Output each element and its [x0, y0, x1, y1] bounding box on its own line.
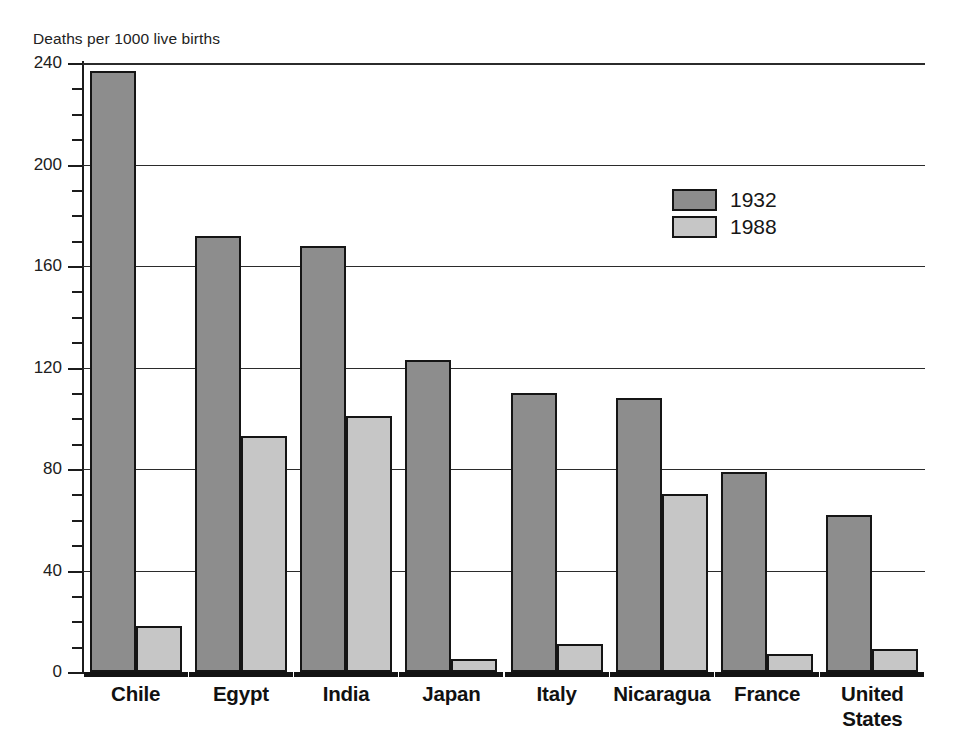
y-tick-210 — [72, 139, 83, 141]
bar-group — [405, 63, 497, 672]
y-tick-150 — [72, 291, 83, 293]
x-axis-label-line: France — [715, 681, 820, 706]
bar-1988-japan[interactable] — [451, 659, 497, 672]
bar-1932-chile[interactable] — [90, 71, 136, 672]
x-axis-label-united-states: UnitedStates — [820, 681, 925, 731]
y-axis-label-160: 160 — [34, 256, 62, 276]
bar-1988-united-states[interactable] — [872, 649, 918, 672]
x-axis-label-india: India — [294, 681, 399, 706]
group-baseline — [505, 672, 609, 677]
x-axis-label-france: France — [715, 681, 820, 706]
y-axis-label-120: 120 — [34, 358, 62, 378]
group-baseline — [189, 672, 293, 677]
x-axis-label-line: India — [294, 681, 399, 706]
group-baseline — [820, 672, 924, 677]
bar-1988-italy[interactable] — [557, 644, 603, 672]
bar-group — [300, 63, 392, 672]
legend-label-1988: 1988 — [730, 215, 777, 239]
bar-1932-japan[interactable] — [405, 360, 451, 672]
x-axis-label-nicaragua: Nicaragua — [609, 681, 714, 706]
legend-item-1988[interactable]: 1988 — [672, 213, 777, 240]
legend-swatch-1988-icon — [672, 216, 717, 238]
y-tick-140 — [72, 317, 83, 319]
y-tick-220 — [72, 114, 83, 116]
legend-item-1932[interactable]: 1932 — [672, 186, 777, 213]
y-tick-30 — [72, 596, 83, 598]
group-baseline — [399, 672, 503, 677]
legend-label-1932: 1932 — [730, 188, 777, 212]
y-axis-label-200: 200 — [34, 155, 62, 175]
y-tick-90 — [72, 444, 83, 446]
bar-group — [826, 63, 918, 672]
y-axis-label-240: 240 — [34, 53, 62, 73]
bar-1932-united-states[interactable] — [826, 515, 872, 672]
x-axis-label-line: States — [820, 706, 925, 731]
bar-group — [511, 63, 603, 672]
group-baseline — [84, 672, 188, 677]
bar-1932-india[interactable] — [300, 246, 346, 672]
chart-legend: 1932 1988 — [672, 186, 777, 240]
group-baseline — [715, 672, 819, 677]
infant-mortality-bar-chart: Deaths per 1000 live births 040801201602… — [0, 0, 964, 744]
y-axis-label-80: 80 — [43, 459, 62, 479]
x-axis-label-line: Nicaragua — [609, 681, 714, 706]
bar-group — [90, 63, 182, 672]
y-tick-130 — [72, 342, 83, 344]
x-axis-label-line: Italy — [504, 681, 609, 706]
bar-1988-france[interactable] — [767, 654, 813, 672]
y-tick-200 — [68, 165, 83, 167]
y-tick-240 — [68, 63, 83, 65]
y-tick-40 — [68, 571, 83, 573]
x-axis-label-line: United — [820, 681, 925, 706]
bar-1932-italy[interactable] — [511, 393, 557, 672]
plot-area — [83, 63, 925, 672]
y-axis-label-40: 40 — [43, 561, 62, 581]
bar-1932-nicaragua[interactable] — [616, 398, 662, 672]
y-tick-170 — [72, 241, 83, 243]
x-axis-label-line: Chile — [83, 681, 188, 706]
y-tick-50 — [72, 545, 83, 547]
bar-1988-egypt[interactable] — [241, 436, 287, 672]
y-tick-80 — [68, 469, 83, 471]
bar-1988-india[interactable] — [346, 416, 392, 672]
bar-group — [195, 63, 287, 672]
x-axis-label-japan: Japan — [399, 681, 504, 706]
y-tick-110 — [72, 393, 83, 395]
x-axis-label-chile: Chile — [83, 681, 188, 706]
y-tick-70 — [72, 494, 83, 496]
y-tick-60 — [72, 520, 83, 522]
x-axis-label-line: Japan — [399, 681, 504, 706]
bar-1932-egypt[interactable] — [195, 236, 241, 672]
bar-1932-france[interactable] — [721, 472, 767, 672]
y-tick-120 — [68, 368, 83, 370]
y-tick-0 — [68, 672, 83, 674]
x-axis-label-egypt: Egypt — [188, 681, 293, 706]
bar-1988-nicaragua[interactable] — [662, 494, 708, 672]
y-tick-160 — [68, 266, 83, 268]
y-tick-20 — [72, 621, 83, 623]
y-tick-10 — [72, 647, 83, 649]
y-tick-230 — [72, 88, 83, 90]
group-baseline — [610, 672, 714, 677]
group-baseline — [294, 672, 398, 677]
x-axis-label-italy: Italy — [504, 681, 609, 706]
y-tick-100 — [72, 418, 83, 420]
chart-axis-title: Deaths per 1000 live births — [33, 30, 220, 48]
bar-group — [616, 63, 708, 672]
bar-1988-chile[interactable] — [136, 626, 182, 672]
x-axis-label-line: Egypt — [188, 681, 293, 706]
y-tick-190 — [72, 190, 83, 192]
y-axis-label-0: 0 — [53, 662, 62, 682]
legend-swatch-1932-icon — [672, 189, 717, 211]
bar-group — [721, 63, 813, 672]
y-tick-180 — [72, 215, 83, 217]
